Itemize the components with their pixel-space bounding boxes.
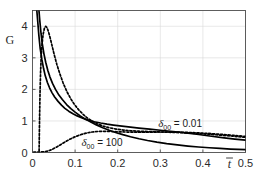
annot-delta-001-text: δ00 = 0.01 (158, 117, 202, 130)
chart-svg: 00.10.20.30.40.501234 Gt δ00 = 0.01δ00 =… (0, 0, 266, 181)
series-line-dotted-rising (34, 131, 246, 152)
ytick-label: 2 (21, 83, 27, 95)
y-axis-title: G (6, 33, 15, 47)
chart-figure: 00.10.20.30.40.501234 Gt δ00 = 0.01δ00 =… (0, 0, 266, 181)
x-axis-title: t (226, 157, 233, 171)
xtick-label: 0.4 (195, 157, 210, 169)
ytick-label: 0 (21, 147, 27, 159)
x-axis-title-text: t (228, 157, 232, 171)
ytick-label: 1 (21, 115, 27, 127)
xtick-label: 0.3 (153, 157, 168, 169)
ytick-label: 3 (21, 52, 27, 64)
annot-delta-100: δ00 = 100 (81, 136, 122, 149)
annot-delta-100-text: δ00 = 100 (81, 136, 122, 149)
annot-delta-001: δ00 = 0.01 (158, 117, 202, 130)
xtick-label: 0.2 (110, 157, 125, 169)
xtick-label: 0.1 (67, 157, 82, 169)
ytick-label: 4 (21, 20, 27, 32)
series-line-solid-upper (37, 7, 246, 140)
data-series (34, 7, 246, 152)
tick-labels: 00.10.20.30.40.501234 (21, 20, 253, 168)
xtick-label: 0.5 (238, 157, 253, 169)
xtick-label: 0 (29, 157, 35, 169)
